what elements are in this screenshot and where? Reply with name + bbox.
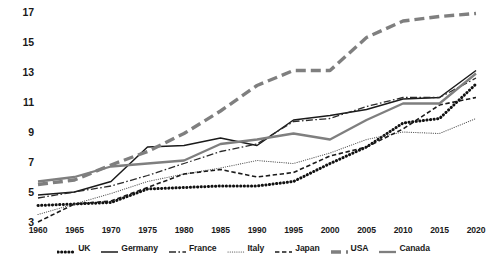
legend-item-uk[interactable]: UK bbox=[57, 243, 90, 253]
legend-item-italy[interactable]: Italy bbox=[227, 243, 265, 253]
fine-dotted-line-icon bbox=[227, 243, 246, 253]
x-tick-label: 2010 bbox=[387, 226, 419, 235]
line-chart: 357911131517 196019651970197519801985199… bbox=[0, 0, 487, 268]
legend-label: Italy bbox=[248, 244, 265, 253]
background-bleed-text bbox=[0, 256, 487, 268]
x-tick-label: 1985 bbox=[205, 226, 237, 235]
dashed-line-icon bbox=[274, 243, 293, 253]
legend-item-canada[interactable]: Canada bbox=[378, 243, 429, 253]
series-line-france bbox=[38, 78, 476, 198]
x-tick-label: 1990 bbox=[241, 226, 273, 235]
solid-line-icon bbox=[100, 243, 119, 253]
legend-item-france[interactable]: France bbox=[168, 243, 217, 253]
x-tick-label: 2000 bbox=[314, 226, 346, 235]
x-tick-label: 1995 bbox=[278, 226, 310, 235]
legend-label: UK bbox=[78, 244, 90, 253]
legend-label: Germany bbox=[121, 244, 158, 253]
x-axis: 1960196519701975198019851990199520002005… bbox=[0, 222, 487, 238]
legend-label: France bbox=[189, 244, 217, 253]
legend-item-germany[interactable]: Germany bbox=[100, 243, 158, 253]
chart-legend: UKGermanyFranceItalyJapanUSACanada bbox=[0, 240, 487, 256]
dash-dot-line-icon bbox=[168, 243, 187, 253]
x-tick-label: 1960 bbox=[22, 226, 54, 235]
x-tick-label: 1980 bbox=[168, 226, 200, 235]
x-tick-label: 1975 bbox=[132, 226, 164, 235]
solid-gray-line-icon bbox=[378, 243, 397, 253]
x-tick-label: 1965 bbox=[59, 226, 91, 235]
dotted-thick-icon bbox=[57, 243, 76, 253]
legend-label: Japan bbox=[295, 244, 319, 253]
legend-item-japan[interactable]: Japan bbox=[274, 243, 319, 253]
x-tick-label: 2020 bbox=[460, 226, 487, 235]
x-tick-label: 2005 bbox=[351, 226, 383, 235]
legend-label: Canada bbox=[399, 244, 429, 253]
x-tick-label: 2015 bbox=[424, 226, 456, 235]
long-dash-thick-icon bbox=[330, 243, 349, 253]
legend-item-usa[interactable]: USA bbox=[330, 243, 369, 253]
legend-label: USA bbox=[351, 244, 369, 253]
series-line-canada bbox=[38, 74, 476, 182]
series-line-germany bbox=[38, 71, 476, 196]
x-tick-label: 1970 bbox=[95, 226, 127, 235]
